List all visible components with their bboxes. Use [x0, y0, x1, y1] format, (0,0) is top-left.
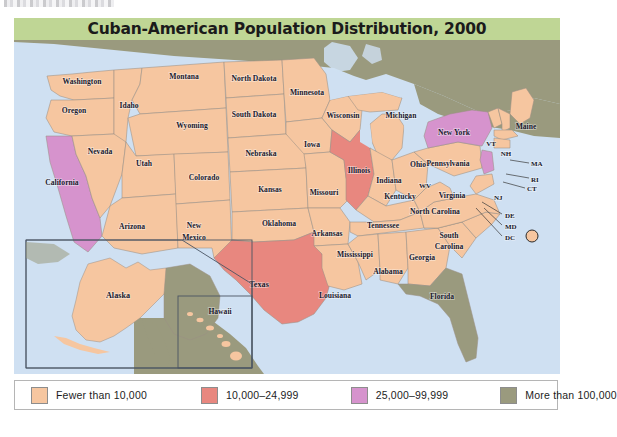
label-wisconsin: Wisconsin	[326, 111, 360, 120]
cropped-text-sliver	[4, 0, 114, 7]
label-alaska: Alaska	[106, 291, 130, 300]
legend-swatch-10k-25k	[201, 387, 218, 404]
label-ohio: Ohio	[410, 160, 426, 169]
state-wyoming	[128, 108, 228, 156]
label-montana: Montana	[169, 72, 199, 81]
label-hawaii: Hawaii	[208, 307, 231, 316]
label-georgia: Georgia	[409, 253, 435, 262]
label-nh: NH	[501, 150, 512, 158]
label-alabama: Alabama	[373, 267, 403, 276]
label-north-carolina: North Carolina	[410, 207, 460, 216]
legend-item-10k-25k: 10,000–24,999	[201, 381, 299, 409]
label-oklahoma: Oklahoma	[262, 219, 296, 228]
label-new-mexico-l1: New	[187, 221, 202, 230]
label-idaho: Idaho	[120, 101, 139, 110]
label-dc: DC	[505, 234, 515, 242]
label-kansas: Kansas	[258, 185, 282, 194]
label-missouri: Missouri	[310, 188, 339, 197]
label-tennessee: Tennessee	[367, 221, 400, 230]
label-minnesota: Minnesota	[290, 88, 324, 97]
legend-label-10k-25k: 10,000–24,999	[226, 389, 299, 401]
label-arizona: Arizona	[119, 222, 145, 231]
state-montana	[132, 62, 226, 114]
label-new-mexico-l2: Mexico	[182, 233, 206, 242]
label-vt: VT	[486, 140, 496, 148]
dc-circle-marker	[526, 230, 538, 242]
state-oregon	[46, 98, 114, 136]
label-north-dakota: North Dakota	[232, 74, 277, 83]
label-utah: Utah	[136, 159, 153, 168]
label-virginia: Virginia	[439, 191, 466, 200]
label-ct: CT	[527, 185, 537, 193]
label-colorado: Colorado	[189, 173, 220, 182]
label-indiana: Indiana	[376, 176, 402, 185]
legend-item-25k-100k: 25,000–99,999	[351, 381, 449, 409]
label-illinois: Illinois	[348, 166, 370, 175]
legend-swatch-more-100k	[500, 387, 517, 404]
label-ri: RI	[531, 176, 539, 184]
label-iowa: Iowa	[304, 140, 320, 149]
legend-item-fewer-10k: Fewer than 10,000	[31, 381, 147, 409]
us-choropleth-map: Washington Oregon California Idaho Nevad…	[14, 18, 560, 374]
label-wv: WV	[419, 182, 431, 190]
label-wyoming: Wyoming	[176, 121, 208, 130]
map-figure: Cuban-American Population Distribution, …	[14, 18, 560, 374]
legend-label-fewer-10k: Fewer than 10,000	[56, 389, 147, 401]
label-florida: Florida	[430, 292, 454, 301]
state-arkansas	[308, 208, 350, 246]
label-south-carolina-l2: Carolina	[435, 242, 464, 251]
label-south-dakota: South Dakota	[232, 110, 277, 119]
legend-label-more-100k: More than 100,000	[525, 389, 617, 401]
label-pennsylvania: Pennsylvania	[426, 159, 469, 168]
label-washington: Washington	[63, 77, 103, 86]
label-arkansas: Arkansas	[312, 229, 343, 238]
label-michigan: Michigan	[386, 111, 418, 120]
label-de: DE	[505, 212, 515, 220]
label-nj: NJ	[494, 194, 503, 202]
legend-swatch-25k-100k	[351, 387, 368, 404]
label-new-york: New York	[438, 128, 471, 137]
label-california: California	[45, 178, 79, 187]
label-nebraska: Nebraska	[245, 149, 276, 158]
label-mississippi: Mississippi	[337, 250, 373, 259]
state-connecticut-ri	[494, 138, 510, 148]
label-maine: Maine	[516, 122, 537, 131]
legend-item-more-100k: More than 100,000	[500, 381, 617, 409]
label-kentucky: Kentucky	[384, 192, 416, 201]
label-south-carolina-l1: South	[440, 231, 460, 240]
legend-swatch-fewer-10k	[31, 387, 48, 404]
legend-label-25k-100k: 25,000–99,999	[376, 389, 449, 401]
label-nevada: Nevada	[88, 147, 113, 156]
map-legend: Fewer than 10,000 10,000–24,999 25,000–9…	[14, 380, 558, 410]
label-md: MD	[505, 223, 517, 231]
label-ma: MA	[531, 160, 543, 168]
label-oregon: Oregon	[62, 106, 87, 115]
label-louisiana: Louisiana	[319, 291, 351, 300]
